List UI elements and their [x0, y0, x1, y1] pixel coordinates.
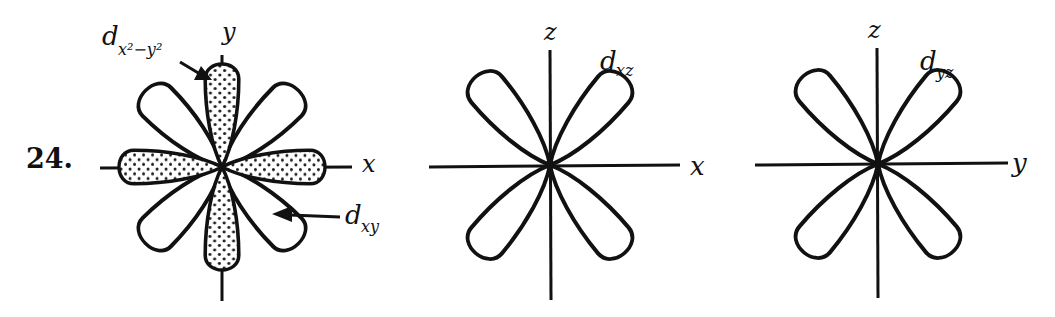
label-dyz-d: d [920, 46, 937, 76]
axis-label-y: y [1011, 148, 1027, 178]
label-dxy-d: d [345, 200, 362, 230]
axis-label-x: x [690, 151, 705, 181]
diagram-dyz: z y d yz [755, 16, 1027, 298]
axis-label-y: y [221, 18, 236, 46]
axis-label-x: x [362, 150, 376, 178]
diagram-dx2y2-dxy: y x d x²−y² d xy [100, 18, 380, 301]
label-dx2y2-subscript: x²−y² [118, 40, 162, 59]
label-dx2y2-d: d [102, 21, 119, 51]
label-dxz-d: d [600, 46, 617, 76]
diagram-dxz: z x d xz [429, 18, 705, 300]
problem-number: 24. [26, 143, 73, 174]
label-dxz-subscript: xz [616, 61, 634, 80]
label-dyz-subscript: yz [935, 63, 954, 82]
orbital-figure: 24. y x d x²−y² [0, 0, 1055, 317]
label-dxy-subscript: xy [361, 217, 380, 236]
axis-label-z: z [543, 18, 557, 46]
axis-label-z: z [867, 16, 881, 44]
